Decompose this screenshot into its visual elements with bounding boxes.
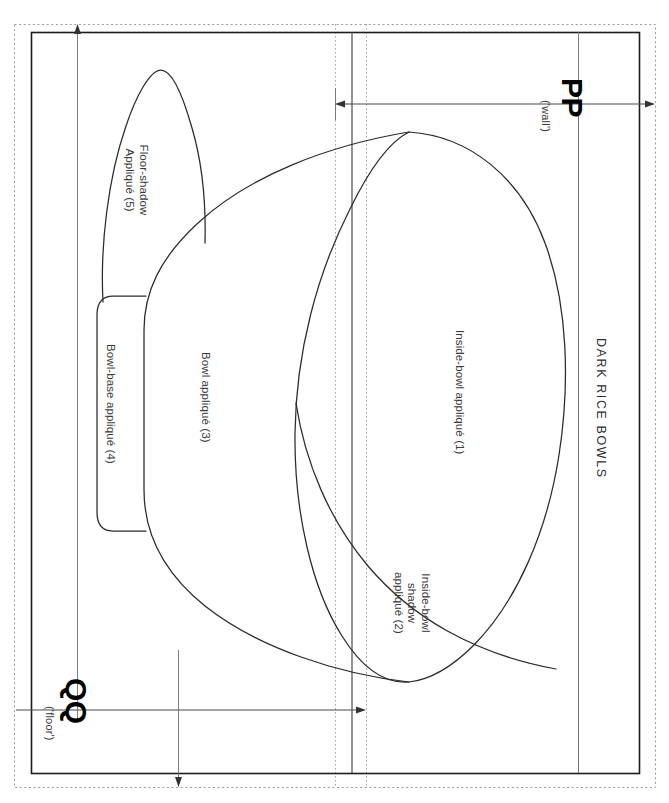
pp-arrowhead-right bbox=[645, 100, 655, 107]
qq-leader-arrow-bottom bbox=[175, 777, 182, 787]
left-leader-arrow-top bbox=[74, 24, 81, 34]
piece-outline-bowl-base-4 bbox=[97, 296, 146, 531]
pp-arrowhead-left bbox=[335, 100, 345, 107]
pattern-diagram bbox=[0, 0, 669, 803]
page-frame bbox=[32, 33, 640, 774]
pattern-sheet: DARK RICE BOWLS Inside-bowl appliqué (1)… bbox=[0, 0, 669, 803]
qq-arrowhead-right bbox=[356, 706, 366, 713]
piece-outline-inside-bowl-1 bbox=[295, 132, 566, 682]
piece-outline-bowl-3 bbox=[144, 132, 409, 682]
piece-outline-floor-shadow-5 bbox=[102, 70, 205, 302]
